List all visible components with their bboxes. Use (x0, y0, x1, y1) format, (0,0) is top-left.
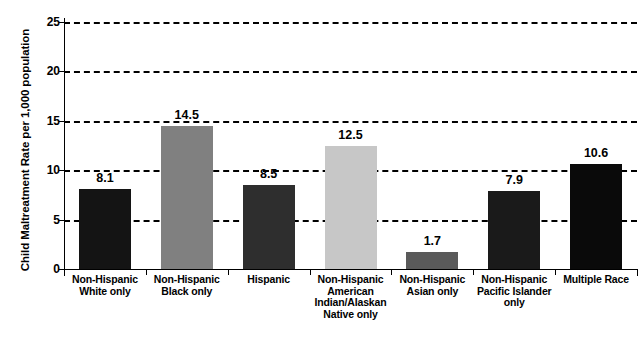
x-label-line: Non-Hispanic (391, 274, 473, 286)
x-label-line: Native only (310, 309, 392, 321)
x-axis-label: Non-HispanicWhite only (64, 274, 146, 297)
x-label-line: White only (64, 286, 146, 298)
x-label-line: Multiple Race (555, 274, 637, 286)
bar-chart: Child Maltreatment Rate per 1,000 popula… (0, 0, 644, 337)
x-label-line: Non-Hispanic (64, 274, 146, 286)
x-label-line: Black only (146, 286, 228, 298)
x-axis-label: Non-HispanicBlack only (146, 274, 228, 297)
x-label-line: Non-Hispanic (473, 274, 555, 286)
x-label-line: Indian/Alaskan (310, 297, 392, 309)
x-axis-label: Non-HispanicAmericanIndian/AlaskanNative… (310, 274, 392, 320)
x-axis-label: Non-HispanicAsian only (391, 274, 473, 297)
x-axis-label: Hispanic (228, 274, 310, 286)
x-label-line: Non-Hispanic (310, 274, 392, 286)
x-label-line: Asian only (391, 286, 473, 298)
x-axis-label: Non-HispanicPacific Islanderonly (473, 274, 555, 309)
x-axis-label: Multiple Race (555, 274, 637, 286)
x-label-line: Non-Hispanic (146, 274, 228, 286)
x-label-line: Hispanic (228, 274, 310, 286)
x-axis-category-labels: Non-HispanicWhite onlyNon-HispanicBlack … (64, 274, 638, 334)
x-label-line: only (473, 297, 555, 309)
